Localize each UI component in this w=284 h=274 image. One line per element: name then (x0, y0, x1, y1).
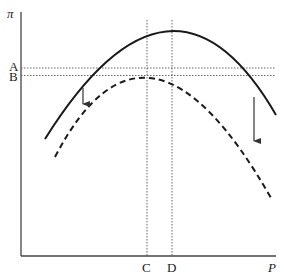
marker-label-b: B (9, 69, 18, 84)
marker-label-d: D (167, 260, 176, 274)
y-axis-label: π (7, 6, 14, 21)
x-axis-label: P (267, 260, 276, 274)
marker-label-c: C (142, 260, 151, 274)
original-profit-curve (45, 31, 276, 139)
profit-curve-diagram: π A B C D P (0, 0, 284, 274)
shifted-profit-curve (55, 78, 271, 198)
